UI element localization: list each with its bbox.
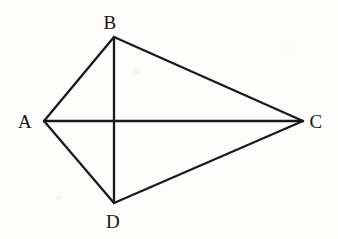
edge-cd <box>114 121 303 203</box>
geometry-figure: A B C D <box>0 0 338 239</box>
edge-da <box>44 121 114 203</box>
vertex-label-b: B <box>104 13 117 32</box>
edge-bc <box>114 37 303 121</box>
edge-ab <box>44 37 114 121</box>
vertex-label-d: D <box>106 212 120 231</box>
figure-canvas <box>0 0 338 239</box>
vertex-label-c: C <box>310 112 323 131</box>
vertex-label-a: A <box>18 112 32 131</box>
